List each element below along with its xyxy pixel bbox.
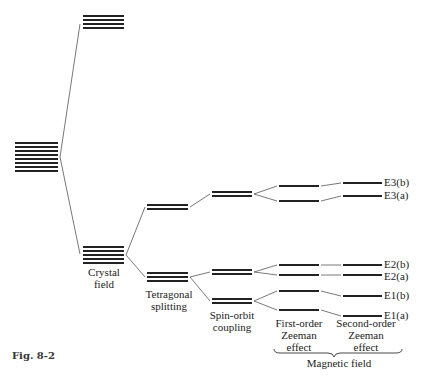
label-e3b: E3(b): [384, 176, 409, 188]
first-zeeman-line3: effect: [268, 341, 330, 353]
crystal-field-lower-levels: [83, 247, 124, 263]
first-zeeman-line2: Zeeman: [268, 329, 330, 341]
spin-orbit-levels: [212, 192, 252, 303]
label-e2a: E2(a): [384, 270, 408, 282]
tetragonal-levels: [147, 205, 188, 281]
second-zeeman-line2: Zeeman: [330, 329, 402, 341]
spin-orbit-line1: Spin-orbit: [202, 309, 262, 321]
tetragonal-line2: splitting: [138, 300, 200, 312]
label-magnetic-field: Magnetic field: [294, 357, 384, 369]
free-ion-levels: [15, 143, 58, 171]
label-tetragonal: Tetragonal splitting: [138, 288, 200, 312]
spin-orbit-line2: coupling: [202, 321, 262, 333]
label-second-zeeman: Second-order Zeeman effect: [330, 317, 402, 353]
magnetic-field-text: Magnetic field: [294, 357, 384, 369]
label-spin-orbit: Spin-orbit coupling: [202, 309, 262, 333]
second-zeeman-line3: effect: [330, 341, 402, 353]
label-e1b: E1(b): [384, 289, 409, 301]
crystal-field-upper-levels: [83, 16, 124, 28]
crystal-field-line2: field: [78, 278, 130, 290]
label-crystal-field: Crystal field: [78, 266, 130, 290]
first-zeeman-levels: [279, 186, 319, 310]
first-zeeman-line1: First-order: [268, 317, 330, 329]
label-first-zeeman: First-order Zeeman effect: [268, 317, 330, 353]
crystal-field-line1: Crystal: [78, 266, 130, 278]
label-e3a: E3(a): [384, 189, 408, 201]
figure-caption: Fig. 8-2: [12, 350, 55, 361]
tetragonal-line1: Tetragonal: [138, 288, 200, 300]
second-zeeman-levels: [343, 183, 382, 316]
label-e1a: E1(a): [384, 309, 408, 321]
label-e2b: E2(b): [384, 258, 409, 270]
